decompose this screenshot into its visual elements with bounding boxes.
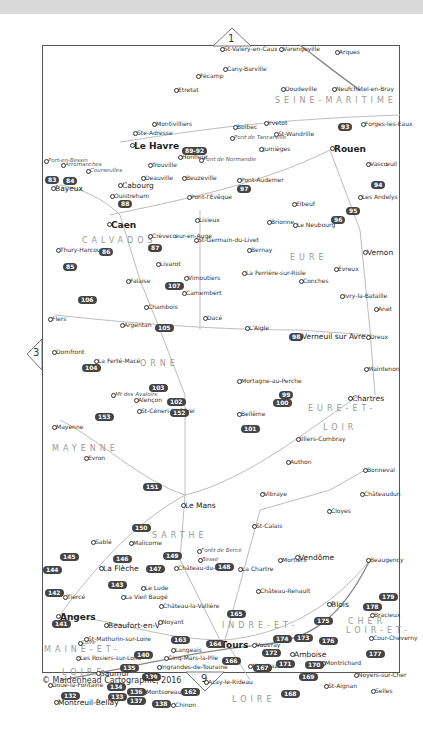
route-number-badge[interactable]: 88	[118, 200, 132, 208]
place-label[interactable]: Le Havre	[134, 142, 179, 151]
place-label[interactable]: Château-la-Vallière	[163, 603, 220, 609]
route-number-badge[interactable]: 148	[215, 563, 234, 571]
route-number-badge[interactable]: 172	[262, 649, 281, 657]
place-label[interactable]: Malicorne	[133, 540, 162, 546]
route-number-badge[interactable]: 101	[241, 425, 260, 433]
route-number-badge[interactable]: 98	[289, 333, 303, 341]
place-label[interactable]: Bolbec	[237, 124, 257, 130]
place-label[interactable]: Cour-Cheverny	[373, 635, 418, 641]
route-number-badge[interactable]: 175	[314, 617, 333, 625]
place-label[interactable]: Chinon	[175, 702, 196, 708]
place-label[interactable]: Tours	[221, 641, 248, 650]
place-label[interactable]: Chambois	[148, 304, 178, 310]
place-label[interactable]: Vendôme	[299, 554, 334, 562]
route-number-badge[interactable]: 149	[163, 552, 182, 560]
place-label[interactable]: Blois	[331, 601, 349, 609]
route-number-badge[interactable]: 106	[78, 296, 97, 304]
place-label[interactable]: L'Aigle	[249, 325, 269, 331]
place-label[interactable]: Bessé	[202, 557, 218, 563]
place-label[interactable]: Maintenon	[368, 366, 400, 372]
route-number-badge[interactable]: 167	[253, 664, 272, 672]
place-label[interactable]: Forêt de Bercé	[201, 548, 242, 554]
route-number-badge[interactable]: 166	[222, 657, 241, 665]
place-label[interactable]: Authon	[290, 459, 312, 465]
place-label[interactable]: Beaufort-en-V	[108, 622, 160, 630]
place-label[interactable]: La Ferté-Macé	[98, 358, 140, 364]
route-number-badge[interactable]: 168	[281, 690, 300, 698]
place-label[interactable]: Bracieux	[374, 612, 400, 618]
route-number-badge[interactable]: 137	[127, 697, 146, 705]
place-label[interactable]: Cloyes	[331, 508, 351, 514]
place-label[interactable]: Tiercé	[67, 594, 85, 600]
route-number-badge[interactable]: 171	[276, 660, 295, 668]
place-label[interactable]: Illiers-Combray	[300, 436, 345, 442]
place-label[interactable]: Pont-l'Évêque	[191, 194, 232, 200]
route-number-badge[interactable]: 103	[149, 384, 168, 392]
place-label[interactable]: La Vieil Baugé	[125, 594, 168, 600]
route-number-badge[interactable]: 102	[167, 398, 186, 406]
route-number-badge[interactable]: 104	[82, 364, 101, 372]
place-label[interactable]: Varengeville	[283, 46, 320, 52]
route-number-badge[interactable]: 96	[331, 216, 345, 224]
place-label[interactable]: Ivry-la-Bataille	[344, 293, 387, 299]
route-number-badge[interactable]: 95	[346, 207, 360, 215]
place-label[interactable]: St-Aignan	[328, 683, 357, 689]
place-label[interactable]: Fécamp	[200, 73, 223, 79]
place-label[interactable]: Le Neubourg	[297, 222, 335, 228]
place-label[interactable]: Anet	[378, 306, 392, 312]
place-label[interactable]: La Chartre	[242, 566, 273, 572]
route-number-badge[interactable]: 133	[108, 693, 127, 701]
place-label[interactable]: Vascœuil	[370, 161, 397, 167]
place-label[interactable]: Vimoutiers	[188, 275, 220, 281]
route-number-badge[interactable]: 85	[63, 263, 77, 271]
route-number-badge[interactable]: 94	[371, 181, 385, 189]
place-label[interactable]: Pont-Audemer	[241, 177, 284, 183]
route-number-badge[interactable]: 84	[63, 177, 77, 185]
place-label[interactable]: Beuzeville	[186, 175, 217, 181]
route-number-badge[interactable]: 178	[363, 603, 382, 611]
place-label[interactable]: Mayenne	[56, 424, 83, 430]
place-label[interactable]: Lisieux	[199, 217, 220, 223]
place-label[interactable]: Rouen	[334, 145, 366, 154]
place-label[interactable]: Le Mans	[185, 502, 216, 510]
route-number-badge[interactable]: 87	[148, 244, 162, 252]
route-number-badge[interactable]: 136	[127, 688, 146, 696]
place-label[interactable]: Ouistreham	[114, 193, 149, 199]
place-label[interactable]: Verneuil sur Avre	[302, 333, 366, 341]
route-number-badge[interactable]: 170	[305, 661, 324, 669]
route-number-badge[interactable]: 169	[299, 673, 318, 681]
place-label[interactable]: Montsoreau	[146, 689, 181, 695]
route-number-badge[interactable]: 176	[319, 637, 338, 645]
place-label[interactable]: La Ferrière-sur-Risle	[246, 270, 306, 276]
route-number-badge[interactable]: 99	[279, 391, 293, 399]
place-label[interactable]: Cany-Barville	[227, 66, 267, 72]
place-label[interactable]: Evron	[88, 455, 105, 461]
place-label[interactable]: Elbeuf	[296, 201, 315, 207]
page-marker-top-label[interactable]: 1	[228, 33, 234, 44]
route-number-badge[interactable]: 89-92	[182, 147, 207, 155]
place-label[interactable]: Selles	[375, 688, 393, 694]
place-label[interactable]: Bernay	[251, 247, 272, 253]
place-label[interactable]: Neufchâtel-en-Bray	[336, 86, 394, 92]
place-label[interactable]: Dreux	[370, 334, 388, 340]
place-label[interactable]: Camembert	[186, 290, 222, 296]
place-label[interactable]: Le Lude	[145, 585, 168, 591]
place-label[interactable]: Ste-Adresse	[137, 130, 173, 136]
place-label[interactable]: Etretat	[178, 87, 199, 93]
place-label[interactable]: Chartres	[352, 395, 384, 403]
place-label[interactable]: Beaugency	[370, 557, 403, 563]
place-label[interactable]: Doudeville	[285, 86, 317, 92]
route-number-badge[interactable]: 147	[146, 565, 165, 573]
place-label[interactable]: Arques	[339, 49, 360, 55]
place-label[interactable]: Trouville	[152, 162, 177, 168]
place-label[interactable]: Brionne	[271, 219, 294, 225]
route-number-badge[interactable]: 163	[171, 636, 190, 644]
route-number-badge[interactable]: 152	[170, 409, 189, 417]
place-label[interactable]: Vibraye	[264, 491, 287, 497]
route-number-badge[interactable]: 144	[43, 566, 62, 574]
place-label[interactable]: St-Germain-du-Livet	[198, 237, 259, 243]
place-label[interactable]: Château-Renault	[260, 588, 310, 594]
route-number-badge[interactable]: 174	[273, 635, 292, 643]
route-number-badge[interactable]: 86	[99, 248, 113, 256]
place-label[interactable]: Cabourg	[122, 182, 154, 190]
